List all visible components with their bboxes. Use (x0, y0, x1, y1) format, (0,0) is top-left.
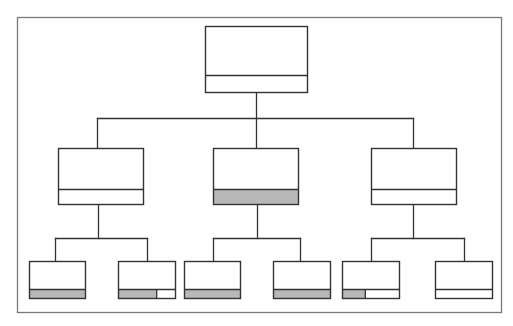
node-box (436, 262, 493, 299)
node-mid-center (214, 149, 299, 205)
node-status-fill (30, 290, 86, 299)
node-mid-left (59, 149, 144, 205)
node-box (59, 149, 144, 205)
node-status-fill (343, 290, 366, 299)
node-status-fill (214, 190, 299, 205)
node-box (206, 27, 308, 93)
node-root (206, 27, 308, 93)
node-status-fill (185, 290, 241, 299)
node-mid-right (372, 149, 457, 205)
node-box (372, 149, 457, 205)
node-status-fill (119, 290, 157, 299)
node-leaf-2 (119, 262, 176, 299)
node-leaf-3 (185, 262, 241, 299)
node-status-fill (274, 290, 331, 299)
node-leaf-4 (274, 262, 331, 299)
node-leaf-1 (30, 262, 86, 299)
org-chart-diagram (0, 0, 513, 326)
node-leaf-5 (343, 262, 400, 299)
node-leaf-6 (436, 262, 493, 299)
